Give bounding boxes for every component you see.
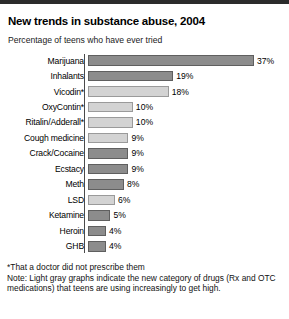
- bar-track: 10%: [88, 100, 285, 113]
- bar-track: 4%: [88, 224, 285, 237]
- bar-value-label: 9%: [131, 133, 143, 143]
- bar-rows-container: Marijuana37%Inhalants19%Vicodin*18%OxyCo…: [8, 54, 285, 253]
- bar-value-label: 4%: [109, 226, 121, 236]
- bar-category-label: OxyContin*: [8, 102, 88, 112]
- bar-track: 9%: [88, 131, 285, 144]
- bar-light: [88, 133, 128, 144]
- bar-dark: [88, 179, 124, 190]
- bar-value-label: 5%: [113, 210, 125, 220]
- bar-row: Crack/Cocaine9%: [8, 147, 285, 160]
- bar-row: Ecstacy9%: [8, 162, 285, 175]
- bar-value-label: 9%: [131, 164, 143, 174]
- bar-track: 8%: [88, 178, 285, 191]
- bar-category-label: Cough medicine: [8, 133, 88, 143]
- bar-row: Ketamine5%: [8, 209, 285, 222]
- bar-track: 18%: [88, 85, 285, 98]
- bar-light: [88, 86, 169, 97]
- bar-category-label: Crack/Cocaine: [8, 148, 88, 158]
- bar-dark: [88, 226, 106, 237]
- bar-track: 6%: [88, 193, 285, 206]
- bar-dark: [88, 241, 106, 252]
- page-title: New trends in substance abuse, 2004: [8, 15, 289, 28]
- bar-value-label: 8%: [127, 179, 139, 189]
- bar-category-label: GHB: [8, 241, 88, 251]
- bar-row: Heroin4%: [8, 224, 285, 237]
- bar-category-label: LSD: [8, 195, 88, 205]
- bar-category-label: Meth: [8, 179, 88, 189]
- note-line-2: medications) that teens are using increa…: [7, 283, 283, 294]
- bar-track: 9%: [88, 147, 285, 160]
- bar-category-label: Ritalin/Adderall*: [8, 117, 88, 127]
- bar-row: Marijuana37%: [8, 54, 285, 67]
- footnote-asterisk: *That a doctor did not prescribe them: [7, 262, 283, 273]
- chart-notes: *That a doctor did not prescribe them No…: [7, 262, 289, 294]
- bar-value-label: 4%: [109, 241, 121, 251]
- bar-row: LSD6%: [8, 193, 285, 206]
- bar-value-label: 37%: [257, 56, 274, 66]
- bar-dark: [88, 210, 110, 221]
- bar-value-label: 9%: [131, 148, 143, 158]
- bar-light: [88, 102, 133, 113]
- bar-category-label: Ketamine: [8, 210, 88, 220]
- bar-track: 37%: [88, 54, 285, 67]
- bar-track: 5%: [88, 209, 285, 222]
- bar-category-label: Vicodin*: [8, 87, 88, 97]
- bar-chart: Marijuana37%Inhalants19%Vicodin*18%OxyCo…: [0, 54, 289, 253]
- bar-light: [88, 117, 133, 128]
- bar-category-label: Ecstacy: [8, 164, 88, 174]
- bar-dark: [88, 71, 173, 82]
- bar-row: OxyContin*10%: [8, 100, 285, 113]
- bar-track: 9%: [88, 162, 285, 175]
- bar-row: Vicodin*18%: [8, 85, 285, 98]
- chart-baseline-axis: [84, 54, 85, 253]
- bar-category-label: Marijuana: [8, 56, 88, 66]
- bar-row: Ritalin/Adderall*10%: [8, 116, 285, 129]
- bar-light: [88, 195, 115, 206]
- bar-dark: [88, 55, 254, 66]
- bar-value-label: 10%: [136, 117, 153, 127]
- bar-dark: [88, 148, 128, 159]
- bar-category-label: Heroin: [8, 226, 88, 236]
- bar-row: Meth8%: [8, 178, 285, 191]
- bar-track: 10%: [88, 116, 285, 129]
- chart-subtitle: Percentage of teens who have ever tried: [8, 35, 289, 45]
- bar-value-label: 19%: [176, 71, 193, 81]
- bar-category-label: Inhalants: [8, 71, 88, 81]
- bar-row: GHB4%: [8, 240, 285, 253]
- note-line-1: Note: Light gray graphs indicate the new…: [7, 273, 283, 284]
- bar-track: 4%: [88, 240, 285, 253]
- bar-row: Cough medicine9%: [8, 131, 285, 144]
- bar-value-label: 6%: [118, 195, 130, 205]
- bar-dark: [88, 164, 128, 175]
- bar-value-label: 10%: [136, 102, 153, 112]
- bar-track: 19%: [88, 69, 285, 82]
- bar-row: Inhalants19%: [8, 69, 285, 82]
- chart-figure: New trends in substance abuse, 2004 Perc…: [0, 0, 289, 319]
- bar-value-label: 18%: [172, 87, 189, 97]
